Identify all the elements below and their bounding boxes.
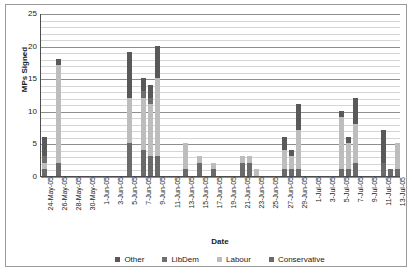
bar-segment-labour bbox=[42, 163, 47, 170]
bar-segment-other bbox=[148, 85, 153, 98]
x-tick-label: 7-Jun-05 bbox=[145, 177, 152, 233]
x-tick-label: 9-Jul-05 bbox=[371, 177, 378, 233]
bar-segment-labour bbox=[127, 98, 132, 144]
legend-swatch-icon bbox=[217, 257, 222, 262]
x-tick-label: 1-Jul-05 bbox=[315, 177, 322, 233]
bar-stack bbox=[353, 98, 358, 176]
bar-stack bbox=[148, 85, 153, 176]
x-tick-label: 13-Jun-05 bbox=[188, 177, 195, 233]
legend-item-conservative[interactable]: Conservative bbox=[269, 255, 325, 264]
bar-segment-conservative bbox=[197, 163, 202, 176]
bar-segment-other bbox=[141, 78, 146, 91]
bar-segment-other bbox=[346, 137, 351, 144]
x-tick-label: 11-Jun-05 bbox=[174, 177, 181, 233]
legend-swatch-icon bbox=[162, 257, 167, 262]
bar-segment-labour bbox=[183, 143, 188, 169]
legend-label: Other bbox=[124, 255, 144, 264]
chart-legend: OtherLibDemLabourConservative bbox=[40, 252, 400, 266]
bar-segment-conservative bbox=[296, 169, 301, 176]
bar-segment-labour bbox=[155, 78, 160, 156]
x-tick-label: 21-Jun-05 bbox=[244, 177, 251, 233]
bar-segment-labour bbox=[197, 156, 202, 163]
y-tick-label: 5 bbox=[7, 140, 37, 148]
bar-stack bbox=[388, 169, 393, 176]
bar-segment-other bbox=[155, 46, 160, 79]
bar-stack bbox=[42, 137, 47, 176]
bar-stack bbox=[254, 169, 259, 176]
legend-item-labour[interactable]: Labour bbox=[217, 255, 251, 264]
chart-frame: MPs Signed 0510152025 24-May-0526-May-05… bbox=[5, 4, 407, 267]
x-tick-label: 26-May-05 bbox=[61, 177, 68, 233]
bar-stack bbox=[211, 163, 216, 176]
bar-segment-conservative bbox=[155, 156, 160, 176]
x-tick-label: 5-Jun-05 bbox=[131, 177, 138, 233]
x-tick-label: 19-Jun-05 bbox=[230, 177, 237, 233]
bar-segment-labour bbox=[247, 156, 252, 163]
bar-segment-labour bbox=[211, 163, 216, 170]
bar-stack bbox=[127, 52, 132, 176]
bar-segment-conservative bbox=[42, 169, 47, 176]
x-tick-label: 11-Jul-05 bbox=[385, 177, 392, 233]
bar-segment-other bbox=[381, 130, 386, 163]
plot-area bbox=[40, 14, 400, 177]
bar-segment-conservative bbox=[183, 169, 188, 176]
bar-segment-conservative bbox=[247, 163, 252, 176]
bar-stack bbox=[240, 156, 245, 176]
bar-segment-other bbox=[127, 52, 132, 98]
bar-segment-libdem bbox=[148, 98, 153, 105]
bar-segment-conservative bbox=[353, 163, 358, 176]
x-tick-label: 24-May-05 bbox=[47, 177, 54, 233]
x-tick-label: 3-Jun-05 bbox=[117, 177, 124, 233]
legend-item-libdem[interactable]: LibDem bbox=[162, 255, 199, 264]
bar-segment-conservative bbox=[56, 163, 61, 176]
x-tick-label: 1-Jun-05 bbox=[103, 177, 110, 233]
bar-segment-labour bbox=[395, 143, 400, 169]
bar-segment-other bbox=[353, 98, 358, 124]
bar-segment-libdem bbox=[42, 156, 47, 163]
bar-segment-conservative bbox=[282, 169, 287, 176]
bar-stack bbox=[155, 46, 160, 176]
bar-segment-conservative bbox=[395, 169, 400, 176]
bar-stack bbox=[296, 104, 301, 176]
bar-segment-conservative bbox=[339, 169, 344, 176]
bar-stack bbox=[395, 143, 400, 176]
legend-swatch-icon bbox=[115, 257, 120, 262]
legend-label: LibDem bbox=[171, 255, 199, 264]
x-tick-label: 7-Jul-05 bbox=[357, 177, 364, 233]
bar-segment-labour bbox=[282, 150, 287, 170]
bar-stack bbox=[183, 143, 188, 176]
bar-segment-labour bbox=[346, 143, 351, 169]
bar-stack bbox=[247, 156, 252, 176]
bar-segment-labour bbox=[353, 124, 358, 163]
bar-segment-conservative bbox=[289, 169, 294, 176]
bar-segment-labour bbox=[289, 156, 294, 169]
x-tick-label: 15-Jun-05 bbox=[202, 177, 209, 233]
x-tick-label: 17-Jun-05 bbox=[216, 177, 223, 233]
y-tick-label: 25 bbox=[7, 10, 37, 18]
y-tick-label: 15 bbox=[7, 75, 37, 83]
legend-item-other[interactable]: Other bbox=[115, 255, 144, 264]
x-tick-label: 9-Jun-05 bbox=[159, 177, 166, 233]
bar-stack bbox=[346, 137, 351, 176]
legend-label: Labour bbox=[226, 255, 251, 264]
x-tick-label: 28-May-05 bbox=[75, 177, 82, 233]
bar-segment-conservative bbox=[127, 143, 132, 176]
bar-stack bbox=[141, 91, 146, 176]
bar-segment-labour bbox=[254, 169, 259, 176]
bar-stack bbox=[197, 150, 202, 176]
y-axis-tick-labels: 0510152025 bbox=[6, 14, 37, 177]
bar-segment-conservative bbox=[388, 169, 393, 176]
bar-segment-labour bbox=[148, 104, 153, 156]
y-tick-label: 0 bbox=[7, 173, 37, 181]
bar-segment-conservative bbox=[381, 163, 386, 176]
x-tick-label: 5-Jul-05 bbox=[343, 177, 350, 233]
x-tick-label: 29-Jun-05 bbox=[301, 177, 308, 233]
x-axis-tick-labels: 24-May-0526-May-0528-May-0530-May-051-Ju… bbox=[40, 179, 400, 235]
bar-segment-conservative bbox=[240, 163, 245, 176]
y-tick-label: 10 bbox=[7, 108, 37, 116]
bar-segment-other bbox=[296, 104, 301, 130]
bar-segment-labour bbox=[339, 117, 344, 169]
bar-stack bbox=[282, 137, 287, 176]
bar-segment-labour bbox=[141, 98, 146, 150]
bar-stack bbox=[289, 150, 294, 176]
